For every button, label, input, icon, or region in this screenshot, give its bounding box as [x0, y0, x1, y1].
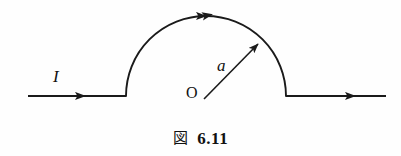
radius-arrow-icon	[204, 44, 258, 99]
figure-page: I a O 図6.11	[0, 0, 401, 156]
figure-caption: 図6.11	[0, 126, 401, 149]
caption-figure-word: 図	[173, 126, 189, 147]
current-label: I	[53, 68, 59, 85]
radius-label: a	[217, 57, 226, 74]
caption-figure-number: 6.11	[197, 129, 228, 148]
radius-vector	[204, 44, 258, 99]
semicircular-arc	[126, 14, 286, 96]
origin-label: O	[186, 85, 198, 101]
